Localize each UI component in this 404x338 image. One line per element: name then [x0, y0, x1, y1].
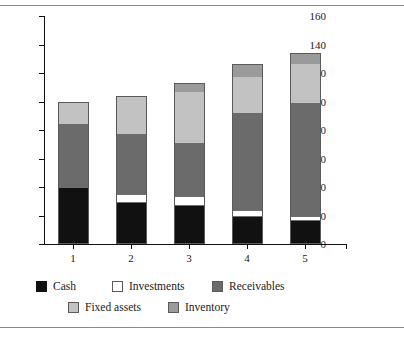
- x-axis-tick-label: 5: [290, 253, 320, 264]
- y-axis-tick-label: 0: [321, 239, 327, 250]
- y-axis-tick: [39, 102, 44, 103]
- y-axis-tick: [39, 16, 44, 17]
- receivables-swatch: [212, 281, 223, 292]
- x-axis-tick: [305, 244, 306, 249]
- legend-label: Receivables: [229, 280, 285, 292]
- legend-label: Investments: [129, 280, 185, 292]
- y-axis-tick: [39, 216, 44, 217]
- y-axis-tick: [39, 187, 44, 188]
- legend-item-inventory: Inventory: [168, 297, 230, 317]
- x-axis-end-tick: [346, 244, 347, 249]
- legend-row-first: CashInvestmentsReceivables: [0, 276, 404, 296]
- fixed-assets-swatch: [68, 302, 79, 313]
- legend-item-investments: Investments: [112, 276, 185, 296]
- y-axis-tick: [39, 73, 44, 74]
- stacked-bar: [116, 16, 147, 244]
- bar-outline: [58, 102, 89, 245]
- y-axis-tick: [39, 130, 44, 131]
- x-axis-tick-label: 4: [232, 253, 262, 264]
- bar-outline: [290, 53, 321, 244]
- x-axis-tick: [247, 244, 248, 249]
- x-axis-tick: [189, 244, 190, 249]
- x-axis-line: [44, 244, 347, 245]
- x-axis-tick: [73, 244, 74, 249]
- legend-row-second: Fixed assetsInventory: [0, 297, 404, 317]
- stacked-bar-chart-figure: 020406080100120140160 12345 CashInvestme…: [0, 0, 404, 338]
- legend-item-receivables: Receivables: [212, 276, 285, 296]
- stacked-bar: [232, 16, 263, 244]
- plot-area: 020406080100120140160 12345: [44, 16, 334, 244]
- legend-label: Inventory: [185, 301, 230, 313]
- figure-bottom-rule: [0, 327, 404, 328]
- x-axis-tick-label: 1: [58, 253, 88, 264]
- figure-top-rule: [0, 5, 404, 6]
- bar-outline: [116, 96, 147, 244]
- y-axis-tick: [39, 45, 44, 46]
- inventory-swatch: [168, 302, 179, 313]
- y-axis-tick: [39, 244, 44, 245]
- bar-outline: [174, 83, 205, 244]
- x-axis-tick: [131, 244, 132, 249]
- legend-label: Cash: [53, 280, 76, 292]
- legend-item-fixed-assets: Fixed assets: [68, 297, 141, 317]
- stacked-bar: [174, 16, 205, 244]
- y-axis-tick: [39, 159, 44, 160]
- investments-swatch: [112, 281, 123, 292]
- stacked-bar: [290, 16, 321, 244]
- stacked-bar: [58, 16, 89, 244]
- x-axis-tick-label: 3: [174, 253, 204, 264]
- cash-swatch: [36, 281, 47, 292]
- bar-outline: [232, 64, 263, 244]
- x-axis-tick-label: 2: [116, 253, 146, 264]
- legend-item-cash: Cash: [36, 276, 76, 296]
- legend-label: Fixed assets: [85, 301, 141, 313]
